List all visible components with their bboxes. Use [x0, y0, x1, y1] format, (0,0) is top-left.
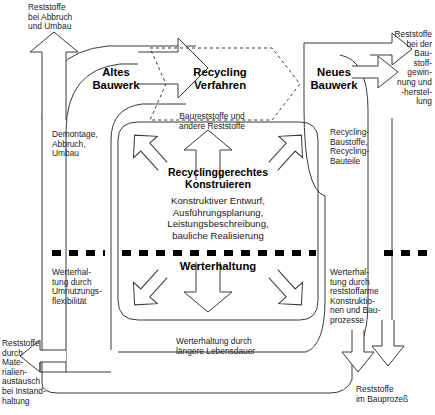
label-reststoffe-abbruch: Reststoffe bei Abbruch und Umbau — [28, 3, 72, 32]
label-reststoffe-bauprozess: Reststoffe im Bauprozeß — [356, 385, 408, 404]
node-neues-bauwerk: Neues Bauwerk — [296, 66, 372, 92]
label-laengere-lebensdauer: Werterhaltung durch längere Lebensdauer — [176, 337, 255, 356]
diagram-canvas: Reststoffe bei Abbruch und Umbau Altes B… — [0, 0, 435, 415]
outer-loop-bottom — [42, 383, 330, 393]
node-recyclinggerechtes-konstruieren: Recyclinggerechtes Konstruieren — [128, 166, 308, 191]
arrow-reststoffe-materialienaustausch-lower — [40, 362, 111, 372]
node-core-body: Konstruktiver Entwurf, Ausführungsplanun… — [118, 195, 318, 241]
label-umnutzungsflexibilitaet: Werterhal- tung durch Umnutzungs- flexib… — [52, 268, 102, 306]
label-baureststoffe: Baureststoffe und andere Reststoffe — [148, 112, 276, 131]
node-altes-bauwerk: Altes Bauwerk — [72, 66, 160, 92]
label-reststoffarme-konstruktionen: Werterhal- tung durch reststoffarme Kons… — [330, 268, 380, 326]
arrow-reststoffe-bauprozess-left — [342, 330, 374, 372]
label-demontage: Demontage, Abbruch, Umbau — [52, 130, 98, 159]
label-reststoffe-baustoffgewinnung: Reststoffe bei der Bau- stoff- gewin- nu… — [376, 30, 432, 107]
node-werterhaltung: Werterhaltung — [148, 260, 288, 273]
node-recycling-verfahren: Recycling Verfahren — [170, 66, 270, 92]
arrow-reststoffe-bauprozess-right — [372, 320, 404, 366]
label-recycling-baustoffe: Recycling- Baustoffe, Recycling- Bauteil… — [330, 128, 369, 166]
arrow-reststoffe-abbruch — [30, 32, 78, 120]
label-materialienaustausch: Reststoffe durch Mate- rialien- austausc… — [2, 339, 46, 406]
